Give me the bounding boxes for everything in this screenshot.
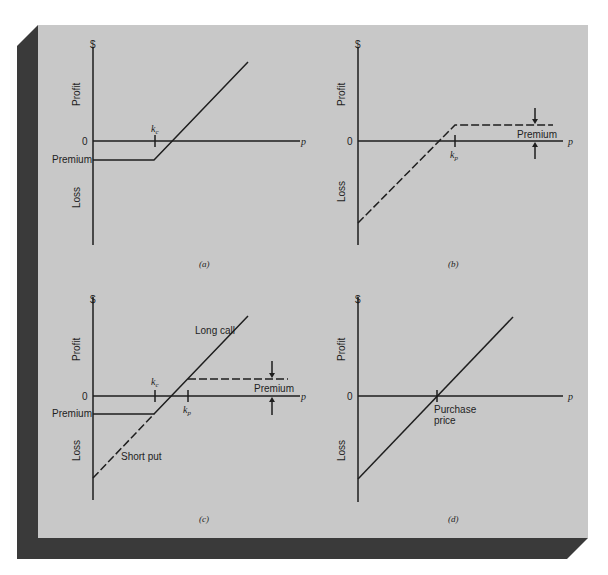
caption-a: (a) [199, 259, 210, 269]
profit-label: Profit [71, 337, 82, 361]
purchase-price-label-line1: Purchase [434, 404, 477, 415]
loss-label: Loss [71, 440, 82, 461]
profit-label: Profit [336, 337, 347, 361]
loss-label: Loss [336, 181, 347, 202]
short-put-label: Short put [121, 451, 162, 462]
options-payoff-figure: $ Profit Loss 0 Premium kc (a) $ Profit … [0, 0, 608, 575]
caption-b: (b) [448, 259, 459, 269]
zero-label: 0 [347, 136, 353, 147]
x-axis-p-label-c: p [300, 391, 306, 402]
loss-label: Loss [336, 440, 347, 461]
loss-label: Loss [71, 187, 82, 208]
y-axis-dollar-label: $ [90, 39, 96, 50]
y-axis-dollar-label: $ [355, 294, 361, 305]
caption-d: (d) [448, 514, 459, 524]
premium-right-label: Premium [254, 383, 294, 394]
premium-label: Premium [52, 154, 92, 165]
bottom-shadow-band [17, 538, 588, 559]
y-axis-dollar-label: $ [355, 39, 361, 50]
zero-label: 0 [82, 391, 88, 402]
profit-label: Profit [336, 82, 347, 106]
y-axis-dollar-label: $ [90, 294, 96, 305]
zero-label: 0 [347, 391, 353, 402]
long-call-label: Long call [195, 325, 235, 336]
zero-label: 0 [82, 136, 88, 147]
profit-label: Profit [71, 82, 82, 106]
x-axis-p-label-a: p [300, 136, 306, 147]
x-axis-p-label-d: p [567, 391, 573, 402]
caption-c: (c) [199, 514, 209, 524]
left-shadow-band [17, 25, 38, 559]
premium-left-label: Premium [52, 408, 92, 419]
premium-label: Premium [517, 129, 557, 140]
x-axis-p-label-b: p [567, 136, 573, 147]
purchase-price-label-line2: price [434, 415, 456, 426]
